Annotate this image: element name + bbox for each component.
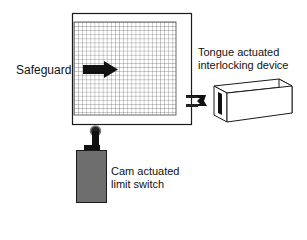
tongue-device-label-line1: Tongue actuated [198, 46, 279, 58]
cam-switch-label-line2: limit switch [111, 178, 164, 190]
tongue-slot [218, 92, 222, 115]
interlocking-device [214, 79, 292, 122]
cam-switch-label-line1: Cam actuated [111, 165, 179, 177]
safeguard-label: Safeguard [16, 64, 71, 76]
tongue-device-label-line2: interlocking device [198, 59, 289, 71]
cam-limit-switch [77, 126, 107, 203]
